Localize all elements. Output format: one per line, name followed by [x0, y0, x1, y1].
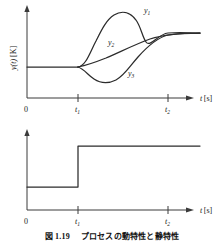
top-xtick-label-t1: t1 [75, 105, 80, 115]
curve-label-y1: y1 [143, 6, 151, 16]
curve-y2 [78, 33, 200, 67]
top-plot-svg: y1 y2 y3 0 t1 t2 t[s] [0, 0, 224, 118]
curve-step-input [27, 146, 200, 187]
bottom-x-axis-arrowhead [186, 207, 194, 212]
figure-caption: 図 1.19 プロセスの動特性と静特性 [0, 230, 224, 241]
caption-number: 図 1.19 [45, 232, 70, 241]
bottom-xtick-label-t1: t1 [75, 217, 80, 227]
bottom-x-axis-label: t[s] [200, 206, 213, 215]
curve-y1 [78, 12, 200, 67]
top-y-axis-arrowhead [24, 5, 29, 12]
top-xtick-label-t2: t2 [165, 105, 170, 115]
caption-text: プロセスの動特性と静特性 [81, 232, 179, 241]
top-plot-output-response: y1 y2 y3 0 t1 t2 t[s] y(t) [K] [0, 0, 224, 118]
top-xtick-label-0: 0 [24, 105, 28, 114]
top-x-axis-label: t[s] [200, 94, 213, 103]
figure-1-19: y1 y2 y3 0 t1 t2 t[s] y(t) [K] [0, 0, 224, 247]
top-x-axis-arrowhead [186, 95, 194, 100]
bottom-y-axis-arrowhead [24, 129, 29, 136]
top-y-axis-label: y(t) [K] [9, 46, 18, 70]
bottom-plot-svg: 0 t1 t2 t[s] [0, 118, 224, 230]
bottom-plot-input-step: 0 t1 t2 t[s] u(t) [J s-1] [0, 118, 224, 230]
bottom-xtick-label-0: 0 [24, 217, 28, 226]
curve-label-y3: y3 [127, 69, 135, 79]
bottom-xtick-label-t2: t2 [165, 217, 170, 227]
curve-label-y2: y2 [107, 38, 115, 48]
